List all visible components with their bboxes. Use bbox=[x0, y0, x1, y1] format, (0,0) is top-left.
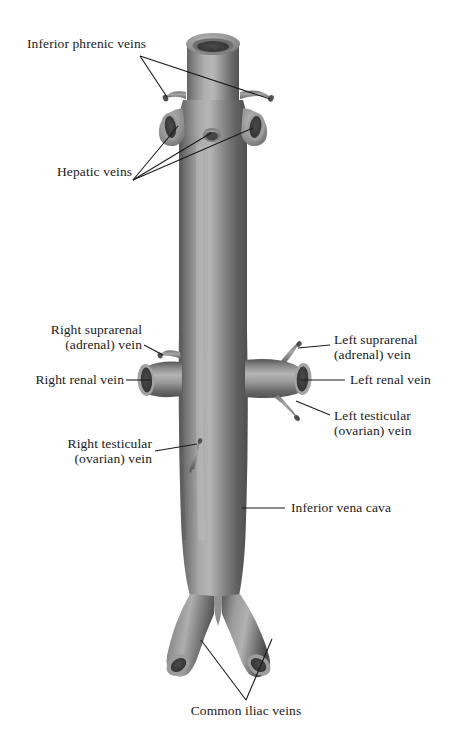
label-inferior-phrenic-veins: Inferior phrenic veins bbox=[27, 36, 146, 51]
inferior-phrenic-vein-right bbox=[162, 91, 186, 102]
common-iliac-vein-left bbox=[222, 594, 275, 680]
inferior-vena-cava-trunk bbox=[178, 44, 248, 596]
label-left-testicular-vein-line1: Left testicular bbox=[334, 408, 411, 423]
label-inferior-vena-cava: Inferior vena cava bbox=[291, 500, 391, 515]
hepatic-vein-left bbox=[241, 108, 267, 146]
leader-right-suprarenal bbox=[144, 345, 163, 355]
label-right-testicular-vein-line1: Right testicular bbox=[0, 436, 152, 451]
anatomy-figure: Inferior phrenic veins Hepatic veins Rig… bbox=[0, 0, 455, 756]
leader-hepatic-right bbox=[133, 126, 178, 180]
label-left-suprarenal-vein-line1: Left suprarenal bbox=[334, 332, 418, 347]
left-testicular-ovarian-vein bbox=[275, 394, 301, 422]
right-renal-vein bbox=[137, 362, 182, 398]
label-left-renal-vein: Left renal vein bbox=[350, 372, 431, 387]
right-suprarenal-vein bbox=[157, 350, 181, 359]
common-iliac-vein-right bbox=[162, 594, 214, 680]
label-left-testicular-vein-line2: (ovarian) vein bbox=[334, 423, 412, 438]
label-right-suprarenal-vein-line1: Right suprarenal bbox=[0, 322, 142, 337]
label-left-suprarenal-vein-line2: (adrenal) vein bbox=[334, 347, 411, 362]
label-common-iliac-veins: Common iliac veins bbox=[156, 703, 336, 718]
leader-left-suprarenal bbox=[298, 345, 330, 348]
inferior-phrenic-vein-left bbox=[240, 91, 275, 103]
left-renal-vein bbox=[245, 359, 312, 398]
label-right-suprarenal-vein-line2: (adrenal) vein bbox=[0, 337, 142, 352]
hepatic-vein-middle bbox=[203, 128, 221, 142]
label-right-testicular-vein-line2: (ovarian) vein bbox=[0, 451, 152, 466]
ivc-superior-opening bbox=[186, 33, 240, 55]
leader-left-testicular bbox=[296, 401, 330, 415]
label-right-renal-vein: Right renal vein bbox=[0, 372, 124, 387]
hepatic-vein-right bbox=[159, 108, 185, 146]
leader-inferior-phrenic-right bbox=[140, 56, 167, 97]
label-hepatic-veins: Hepatic veins bbox=[57, 164, 132, 179]
